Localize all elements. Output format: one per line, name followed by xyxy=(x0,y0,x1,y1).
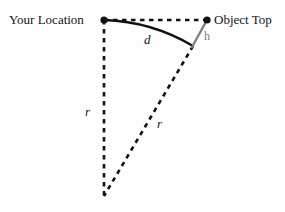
label-object-top: Object Top xyxy=(214,13,272,26)
radius-slant-dashed xyxy=(104,46,193,196)
observer-dot xyxy=(100,16,107,23)
label-your-location: Your Location xyxy=(9,13,84,26)
diagram-canvas: Your Location Object Top d r r h xyxy=(0,0,285,212)
label-arc-distance-d: d xyxy=(144,33,151,46)
label-radius-vertical-r: r xyxy=(85,105,90,118)
object-top-dot xyxy=(203,16,210,23)
label-height-h: h xyxy=(204,30,210,42)
diagram-svg xyxy=(0,0,285,212)
label-radius-slant-r: r xyxy=(157,117,162,130)
